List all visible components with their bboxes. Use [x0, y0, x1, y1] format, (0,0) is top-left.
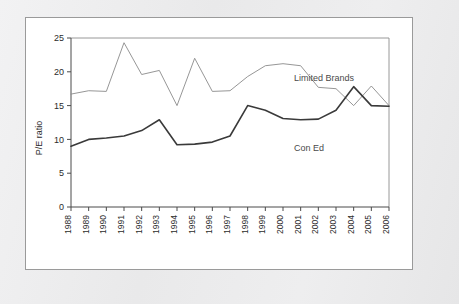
chart-svg: 0510152025 19881989199019911992199319941…: [26, 18, 414, 271]
x-tick-label: 2001: [293, 215, 303, 234]
y-tick-label: 25: [54, 33, 64, 43]
x-tick-label: 1990: [98, 215, 108, 234]
figure-panel: 0510152025 19881989199019911992199319941…: [25, 17, 413, 270]
y-tick-label: 20: [54, 67, 64, 77]
x-tick-label: 1997: [222, 215, 232, 234]
x-tick-label: 2002: [310, 215, 320, 234]
x-tick-label: 1992: [134, 215, 144, 234]
y-axis-title: P/E ratio: [34, 121, 44, 156]
x-tick-label: 1993: [151, 215, 161, 234]
x-tick-label: 1991: [116, 215, 126, 234]
x-axis-ticks: 1988198919901991199219931994199519961997…: [63, 207, 391, 234]
series-annotations: Limited BrandsCon Ed: [294, 73, 355, 153]
pe-ratio-line-chart: 0510152025 19881989199019911992199319941…: [26, 18, 414, 271]
x-tick-label: 1988: [63, 215, 73, 234]
y-tick-label: 10: [54, 135, 64, 145]
chart-axes: [71, 38, 389, 207]
x-tick-label: 2000: [275, 215, 285, 234]
annotation-limited-brands: Limited Brands: [294, 73, 355, 83]
x-tick-label: 2006: [381, 215, 391, 234]
x-tick-label: 1994: [169, 215, 179, 234]
y-axis-ticks: 0510152025: [54, 33, 71, 212]
x-tick-label: 1996: [204, 215, 214, 234]
x-tick-label: 1998: [240, 215, 250, 234]
y-tick-label: 15: [54, 101, 64, 111]
y-tick-label: 0: [59, 202, 64, 212]
plot-border: [71, 38, 389, 207]
x-tick-label: 1999: [257, 215, 267, 234]
plot-frame: [71, 38, 389, 207]
x-tick-label: 1995: [187, 215, 197, 234]
annotation-con-ed: Con Ed: [294, 143, 324, 153]
y-tick-label: 5: [59, 168, 64, 178]
series-line-con-ed: [71, 87, 389, 146]
x-tick-label: 2005: [363, 215, 373, 234]
x-tick-label: 2004: [346, 215, 356, 234]
chart-series: [71, 43, 389, 146]
x-tick-label: 1989: [81, 215, 91, 234]
x-tick-label: 2003: [328, 215, 338, 234]
